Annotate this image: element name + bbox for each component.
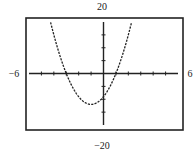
graph-canvas: 20 −20 −6 6 [0, 0, 196, 156]
axes [29, 22, 178, 125]
ymin-label: −20 [94, 140, 110, 151]
parabola-curve [51, 22, 132, 104]
xmin-label: −6 [9, 68, 20, 79]
ymax-label: 20 [97, 1, 107, 12]
xmax-label: 6 [188, 68, 193, 79]
